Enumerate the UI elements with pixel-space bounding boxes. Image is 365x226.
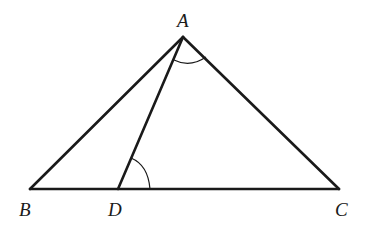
segment-ac <box>183 37 339 189</box>
label-c: C <box>335 199 348 220</box>
segment-ad <box>118 37 183 189</box>
triangle-diagram: A B D C <box>0 0 365 226</box>
angle-arc-dac <box>174 57 206 63</box>
label-b: B <box>19 199 31 220</box>
label-a: A <box>175 10 189 31</box>
label-d: D <box>107 199 122 220</box>
segment-ab <box>30 37 183 189</box>
angle-arc-adc <box>131 158 150 189</box>
